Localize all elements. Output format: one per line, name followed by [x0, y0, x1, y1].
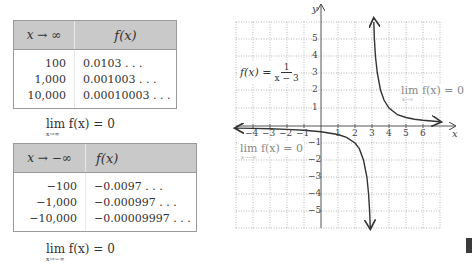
x-tick-label: 4 [386, 128, 392, 138]
x-tick-label: −3 [262, 128, 275, 138]
x-tick-label: 5 [403, 128, 409, 138]
function-lhs: f(x) = [240, 66, 272, 79]
annotation-subscript: x→∞ [402, 96, 413, 102]
y-tick-label: 1 [312, 102, 318, 112]
y-tick-label: −5 [308, 205, 321, 215]
y-tick-label: −4 [308, 188, 321, 198]
x-tick-label: −4 [245, 128, 258, 138]
y-tick-label: −3 [308, 171, 321, 181]
y-tick-label: 3 [312, 67, 318, 77]
annotation-limit-neg-inf: lim f(x) = 0 x→−∞ [239, 142, 304, 155]
page-edge-marker [466, 238, 472, 253]
y-tick-label: 2 [312, 84, 318, 94]
x-tick-label: 3 [369, 128, 375, 138]
function-label: f(x) = 1 x − 3 [238, 62, 301, 83]
y-tick-label: −2 [308, 154, 321, 164]
function-numerator: 1 [281, 62, 293, 73]
x-tick-label: −2 [279, 128, 292, 138]
function-graph [0, 0, 472, 268]
curve-right-branch [374, 22, 440, 122]
x-axis-label: x [452, 128, 458, 139]
y-tick-label: 4 [312, 50, 318, 60]
function-denominator: x − 3 [275, 73, 299, 83]
y-axis-label: y [312, 3, 318, 14]
annotation-limit-pos-inf: lim f(x) = 0 x→∞ [400, 84, 465, 97]
x-tick-label: 2 [352, 128, 358, 138]
annotation-subscript: x→−∞ [241, 154, 256, 160]
x-tick-label: 6 [420, 128, 426, 138]
x-tick-label: 1 [335, 128, 341, 138]
y-tick-label: −1 [308, 137, 321, 147]
y-tick-label: 5 [312, 33, 318, 43]
